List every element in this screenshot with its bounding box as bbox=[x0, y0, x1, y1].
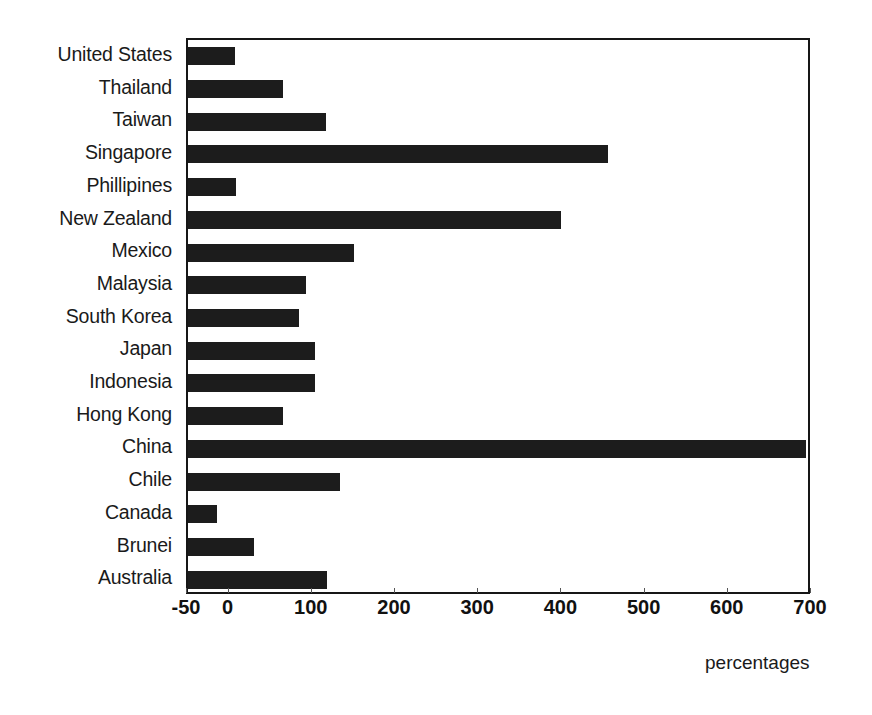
y-axis-label: Brunei bbox=[117, 529, 172, 562]
bar bbox=[188, 113, 326, 131]
y-axis-label: Singapore bbox=[85, 136, 172, 169]
bar bbox=[188, 342, 315, 360]
y-axis-label: Phillipines bbox=[86, 169, 172, 202]
bar bbox=[188, 571, 327, 589]
bar-chart-figure: United StatesThailandTaiwanSingaporePhil… bbox=[0, 0, 872, 715]
y-axis-label: Malaysia bbox=[97, 267, 172, 300]
y-axis-label: Chile bbox=[129, 463, 172, 496]
x-axis-tick-mark bbox=[186, 588, 187, 593]
bar bbox=[188, 211, 561, 229]
bar bbox=[188, 374, 315, 392]
x-axis-tick-label: -50 bbox=[172, 596, 201, 619]
y-axis-label: Canada bbox=[105, 496, 172, 529]
bar bbox=[188, 538, 254, 556]
x-axis-tick-label: 300 bbox=[461, 596, 494, 619]
bar bbox=[188, 407, 283, 425]
y-axis-label: Taiwan bbox=[113, 103, 173, 136]
y-axis-label: Mexico bbox=[111, 234, 172, 267]
bar bbox=[188, 80, 283, 98]
bar bbox=[188, 505, 217, 523]
y-axis-label: Thailand bbox=[99, 71, 172, 104]
x-axis-tick-label: 600 bbox=[710, 596, 743, 619]
y-axis-label: Hong Kong bbox=[76, 398, 172, 431]
x-axis-tick-mark bbox=[727, 588, 728, 593]
bar bbox=[188, 244, 354, 262]
x-axis-tick-label: 200 bbox=[377, 596, 410, 619]
bar bbox=[188, 145, 608, 163]
plot-area bbox=[186, 38, 810, 594]
x-axis-tick-mark bbox=[810, 588, 811, 593]
x-axis-tick-label: 500 bbox=[627, 596, 660, 619]
y-axis-category-labels: United StatesThailandTaiwanSingaporePhil… bbox=[0, 38, 180, 594]
x-axis-tick-label: 100 bbox=[294, 596, 327, 619]
x-axis-tick-mark bbox=[311, 588, 312, 593]
y-axis-label: United States bbox=[58, 38, 172, 71]
x-axis-tick-mark bbox=[560, 588, 561, 593]
y-axis-label: South Korea bbox=[66, 300, 172, 333]
bar bbox=[188, 473, 340, 491]
y-axis-label: Australia bbox=[98, 561, 172, 594]
x-axis-tick-mark bbox=[477, 588, 478, 593]
bar-series bbox=[188, 40, 808, 592]
x-axis-tick-labels: -500100200300400500600700 bbox=[186, 594, 810, 628]
y-axis-label: New Zealand bbox=[59, 202, 172, 235]
x-axis-tick-mark bbox=[644, 588, 645, 593]
x-axis-tick-mark bbox=[394, 588, 395, 593]
bar bbox=[188, 440, 806, 458]
y-axis-label: Japan bbox=[120, 332, 172, 365]
bar bbox=[188, 178, 236, 196]
bar bbox=[188, 309, 299, 327]
y-axis-label: Indonesia bbox=[89, 365, 172, 398]
x-axis-tick-label: 400 bbox=[544, 596, 577, 619]
x-axis-tick-label: 0 bbox=[222, 596, 233, 619]
x-axis-tick-label: 700 bbox=[793, 596, 826, 619]
x-axis-caption: percentages bbox=[705, 652, 810, 674]
bar bbox=[188, 276, 306, 294]
y-axis-label: China bbox=[122, 430, 172, 463]
x-axis-tick-mark bbox=[228, 588, 229, 593]
bar bbox=[188, 47, 235, 65]
